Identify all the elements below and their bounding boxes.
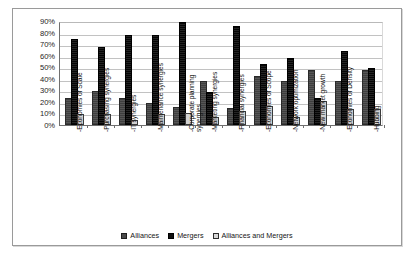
y-axis-tick-label: 10% (15, 110, 55, 118)
x-axis-tick (114, 125, 115, 128)
y-axis-tick-label: 90% (15, 18, 55, 26)
legend-label: Alliances and Mergers (222, 231, 293, 240)
y-axis-tick-label: 0% (15, 122, 55, 130)
chart-legend: AlliancesMergersAlliances and Mergers (13, 231, 401, 240)
legend-label: Alliances (130, 231, 159, 240)
y-axis-tick-label: 30% (15, 87, 55, 95)
x-axis-category-label: -Economies of Density (346, 67, 353, 132)
x-axis-category-label: -Hubbing (373, 106, 380, 132)
x-axis-tick (303, 125, 304, 128)
x-axis-tick (276, 125, 277, 128)
legend-label: Mergers (177, 231, 203, 240)
y-axis-tick-label: 60% (15, 53, 55, 61)
y-axis-tick-label: 50% (15, 64, 55, 72)
legend-swatch-mergers (168, 233, 174, 239)
legend-swatch-alliances (121, 233, 127, 239)
x-axis-tick (357, 125, 358, 128)
legend-item[interactable]: Alliances and Mergers (213, 231, 293, 240)
legend-item[interactable]: Alliances (121, 231, 159, 240)
x-axis-category-label: -Financial synergies (238, 74, 245, 132)
x-axis-tick (384, 125, 385, 128)
x-axis-tick (141, 125, 142, 128)
legend-swatch-both (213, 233, 219, 239)
x-axis-category-label: -IT synergies (130, 95, 137, 132)
y-axis-tick-label: 70% (15, 41, 55, 49)
x-axis-tick (87, 125, 88, 128)
bar-mergers (179, 22, 186, 125)
x-axis-category-label: -Economies of Scope (265, 70, 272, 132)
x-axis-category-label: -Maintenance synergies (157, 63, 164, 132)
x-axis-category-label: -New market growth (319, 74, 326, 132)
y-axis-tick-label: 20% (15, 99, 55, 107)
legend-item[interactable]: Mergers (168, 231, 203, 240)
x-axis-tick (222, 125, 223, 128)
x-axis-category-label: -Network optimization (292, 70, 299, 132)
x-axis-category-label: -Economies of Scale (76, 72, 83, 132)
x-axis-tick (330, 125, 331, 128)
y-axis-tick-label: 80% (15, 30, 55, 38)
x-axis-category-label: -Corporate planningsynergies (188, 75, 203, 132)
x-axis-category-label: -Marketing synergies (211, 72, 218, 132)
x-axis-tick (168, 125, 169, 128)
x-axis-tick (249, 125, 250, 128)
chart-frame: 90%80%70%60%50%40%30%20%10%0% -Economies… (12, 8, 402, 246)
x-axis-category-label: -Purchasing synergies (103, 68, 110, 132)
y-axis-tick-label: 40% (15, 76, 55, 84)
